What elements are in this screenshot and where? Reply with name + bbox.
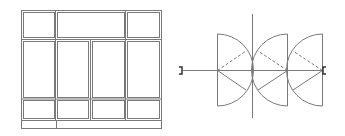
transom-pane-left <box>24 13 55 38</box>
leaf-2-panel <box>258 71 288 91</box>
leaf-3-panel <box>293 71 323 91</box>
elevation-outer-frame <box>22 11 162 129</box>
drawing-canvas <box>0 0 345 136</box>
lower-pane-1 <box>24 101 55 119</box>
leaf-1-panel <box>218 71 247 91</box>
leaf-1-dashed <box>218 51 247 71</box>
window-elevation <box>22 11 162 129</box>
main-pane-4 <box>128 42 160 98</box>
lower-pane-2 <box>58 101 89 119</box>
door-plan <box>179 14 326 118</box>
main-pane-3 <box>93 42 125 98</box>
end-marker-right-icon <box>323 67 326 74</box>
transom-pane-right <box>128 13 160 38</box>
leaf-3-dashed <box>293 51 323 71</box>
end-marker-left-icon <box>179 67 182 74</box>
main-pane-2 <box>58 42 89 98</box>
main-pane-1 <box>24 42 55 98</box>
transom-pane-center <box>58 13 125 38</box>
lower-pane-4 <box>128 101 160 119</box>
lower-pane-3 <box>93 101 125 119</box>
leaf-2-dashed <box>258 51 288 71</box>
